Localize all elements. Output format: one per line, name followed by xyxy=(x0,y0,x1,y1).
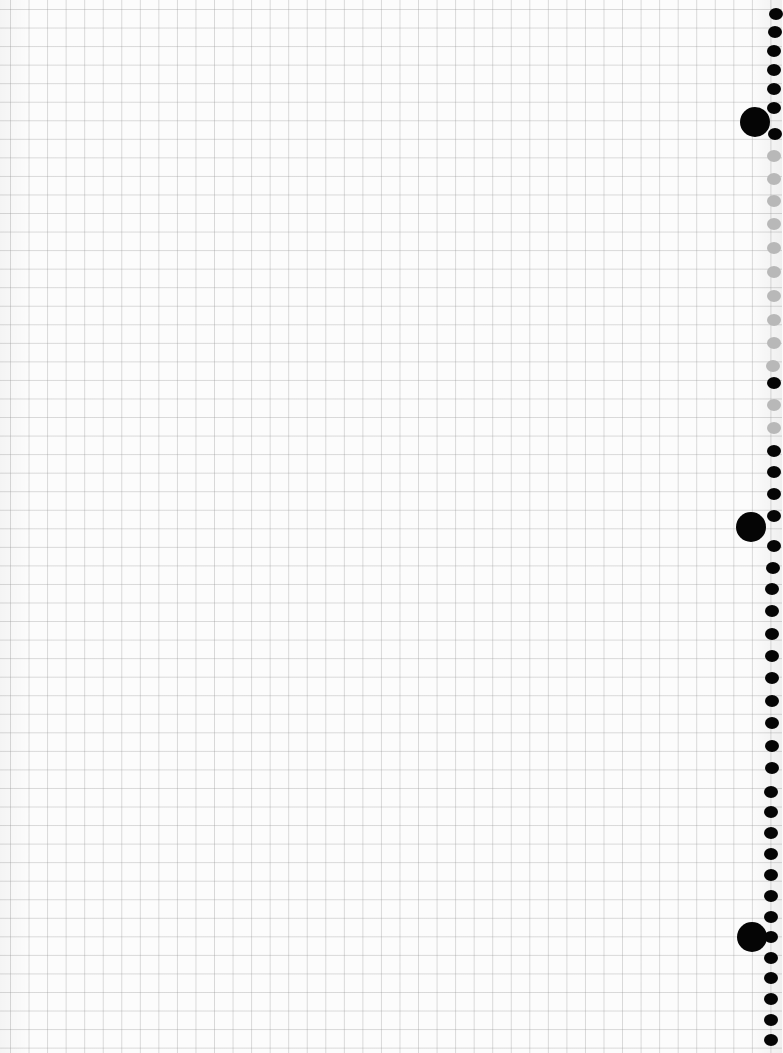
large-binding-hole xyxy=(737,922,767,952)
binding-hole xyxy=(765,605,779,617)
binding-hole xyxy=(767,290,781,302)
binding-hole xyxy=(769,8,783,20)
binding-hole xyxy=(766,562,780,574)
binding-hole xyxy=(764,993,778,1005)
binding-hole xyxy=(765,717,779,729)
binding-hole xyxy=(767,510,781,522)
binding-hole xyxy=(767,488,781,500)
binding-hole xyxy=(764,972,778,984)
large-binding-hole xyxy=(740,107,770,137)
binding-hole xyxy=(764,786,778,798)
binding-hole xyxy=(764,1034,778,1046)
binding-hole xyxy=(767,150,781,162)
binding-hole xyxy=(764,827,778,839)
binding-hole xyxy=(765,650,779,662)
binding-hole xyxy=(767,540,781,552)
binding-hole xyxy=(767,466,781,478)
binding-hole xyxy=(767,173,781,185)
binding-hole xyxy=(765,695,779,707)
binding-hole xyxy=(764,1014,778,1026)
binding-hole xyxy=(764,806,778,818)
binding-hole xyxy=(767,422,781,434)
binding-hole xyxy=(767,445,781,457)
binding-hole xyxy=(767,102,781,114)
binding-hole xyxy=(767,266,781,278)
binding-hole xyxy=(767,195,781,207)
binding-hole xyxy=(765,762,779,774)
binding-hole xyxy=(765,583,779,595)
binding-hole xyxy=(765,740,779,752)
binding-hole xyxy=(764,869,778,881)
binding-hole xyxy=(766,360,780,372)
binding-hole xyxy=(767,45,781,57)
binding-hole xyxy=(765,672,779,684)
large-binding-hole xyxy=(736,512,766,542)
binding-hole xyxy=(764,848,778,860)
binding-hole xyxy=(765,628,779,640)
binding-hole xyxy=(767,337,781,349)
binding-hole xyxy=(767,64,781,76)
binding-hole xyxy=(767,218,781,230)
binding-hole xyxy=(764,952,778,964)
binding-hole xyxy=(764,890,778,902)
binding-hole xyxy=(767,399,781,411)
binding-hole xyxy=(767,377,781,389)
binding-hole xyxy=(767,242,781,254)
binding-hole xyxy=(767,314,781,326)
binding-hole xyxy=(764,911,778,923)
binding-hole xyxy=(768,128,782,140)
binding-hole xyxy=(768,26,782,38)
binding-hole xyxy=(767,83,781,95)
